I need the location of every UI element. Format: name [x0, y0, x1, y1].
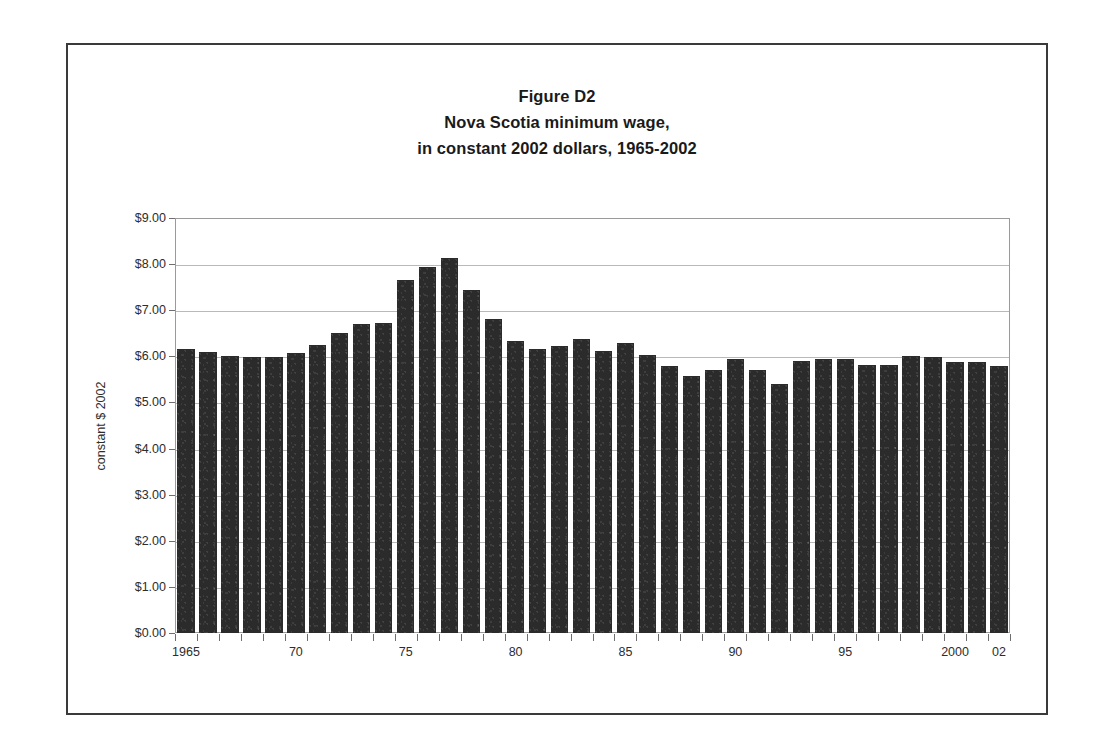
x-axis-tick-mark — [461, 634, 462, 641]
x-axis-tick-label: 2000 — [941, 645, 969, 659]
bar — [990, 366, 1007, 633]
bar — [221, 356, 238, 633]
x-axis-tick-mark — [571, 634, 572, 641]
x-axis-tick-mark — [483, 634, 484, 641]
bar — [639, 355, 656, 634]
bar — [287, 353, 304, 633]
bar — [880, 365, 897, 633]
x-axis-tick-mark — [944, 634, 945, 641]
x-axis-tick-mark — [505, 634, 506, 641]
x-axis-tick-mark — [263, 634, 264, 641]
x-axis-tick-mark — [966, 634, 967, 641]
bar — [946, 362, 963, 633]
bar — [463, 290, 480, 633]
x-axis-tick-label: 02 — [992, 645, 1006, 659]
x-axis-tick-mark — [636, 634, 637, 641]
bar — [331, 333, 348, 633]
bar — [243, 357, 260, 633]
bar — [749, 370, 766, 633]
bar — [419, 267, 436, 633]
x-axis-tick-mark — [988, 634, 989, 641]
bar — [617, 343, 634, 633]
x-axis-tick-mark — [702, 634, 703, 641]
x-axis-tick-marks — [175, 634, 1010, 641]
x-axis-tick-mark — [373, 634, 374, 641]
bar — [727, 359, 744, 633]
x-axis-tick-mark — [614, 634, 615, 641]
bar — [529, 349, 546, 633]
x-axis-tick-mark — [439, 634, 440, 641]
y-axis-tick-label: $9.00 — [135, 211, 166, 225]
x-axis-tick-mark — [549, 634, 550, 641]
x-axis-tick-mark — [856, 634, 857, 641]
bar — [353, 324, 370, 633]
x-axis-tick-mark — [922, 634, 923, 641]
y-axis-tick-label: $7.00 — [135, 303, 166, 317]
x-axis-tick-mark — [746, 634, 747, 641]
x-axis-tick-mark — [1010, 634, 1011, 641]
y-axis-tick-label: $5.00 — [135, 395, 166, 409]
x-axis-tick-mark — [175, 634, 176, 641]
x-axis-tick-mark — [680, 634, 681, 641]
x-axis-tick-mark — [241, 634, 242, 641]
bar — [573, 339, 590, 633]
y-axis-tick-label: $8.00 — [135, 257, 166, 271]
x-axis-tick-mark — [812, 634, 813, 641]
bar — [551, 346, 568, 633]
x-axis-tick-mark — [834, 634, 835, 641]
bar — [595, 351, 612, 633]
y-axis-tick-labels: $0.00$1.00$2.00$3.00$4.00$5.00$6.00$7.00… — [104, 218, 166, 633]
x-axis-tick-mark — [285, 634, 286, 641]
x-axis-tick-label: 90 — [728, 645, 742, 659]
x-axis-tick-label: 1965 — [172, 645, 200, 659]
x-axis-tick-labels: 1965707580859095200002 — [175, 645, 1010, 665]
bar — [375, 323, 392, 633]
bar — [683, 376, 700, 633]
x-axis-tick-mark — [329, 634, 330, 641]
bar — [968, 362, 985, 633]
x-axis-tick-mark — [351, 634, 352, 641]
bar — [199, 352, 216, 633]
x-axis-tick-mark — [878, 634, 879, 641]
bar — [177, 349, 194, 633]
x-axis-tick-mark — [900, 634, 901, 641]
y-axis-tick-label: $6.00 — [135, 349, 166, 363]
x-axis-tick-mark — [724, 634, 725, 641]
chart-title: Figure D2 Nova Scotia minimum wage, in c… — [68, 83, 1046, 161]
x-axis-tick-mark — [219, 634, 220, 641]
bar — [265, 357, 282, 633]
x-axis-tick-mark — [527, 634, 528, 641]
x-axis-tick-label: 95 — [838, 645, 852, 659]
bar — [837, 359, 854, 633]
chart-title-line-1: Figure D2 — [68, 83, 1046, 109]
x-axis-tick-mark — [593, 634, 594, 641]
chart-title-line-2: Nova Scotia minimum wage, — [68, 109, 1046, 135]
plot-area — [175, 218, 1010, 633]
bar — [793, 361, 810, 633]
bar — [815, 359, 832, 633]
bar — [705, 370, 722, 633]
x-axis-tick-mark — [307, 634, 308, 641]
x-axis-tick-mark — [658, 634, 659, 641]
bar — [924, 357, 941, 633]
bar-series — [175, 218, 1010, 633]
y-axis-tick-label: $0.00 — [135, 626, 166, 640]
x-axis-tick-label: 80 — [509, 645, 523, 659]
y-axis-tick-label: $4.00 — [135, 442, 166, 456]
bar — [485, 319, 502, 633]
bar — [507, 341, 524, 633]
bar — [771, 384, 788, 633]
x-axis-tick-mark — [197, 634, 198, 641]
x-axis-tick-mark — [768, 634, 769, 641]
bar — [858, 365, 875, 633]
chart-title-line-3: in constant 2002 dollars, 1965-2002 — [68, 135, 1046, 161]
y-axis-tick-label: $1.00 — [135, 580, 166, 594]
x-axis-tick-label: 75 — [399, 645, 413, 659]
x-axis-tick-label: 85 — [619, 645, 633, 659]
bar — [397, 280, 414, 633]
y-axis-tick-label: $3.00 — [135, 488, 166, 502]
y-axis-tick-label: $2.00 — [135, 534, 166, 548]
bar — [441, 258, 458, 633]
x-axis-tick-mark — [790, 634, 791, 641]
x-axis-tick-label: 70 — [289, 645, 303, 659]
